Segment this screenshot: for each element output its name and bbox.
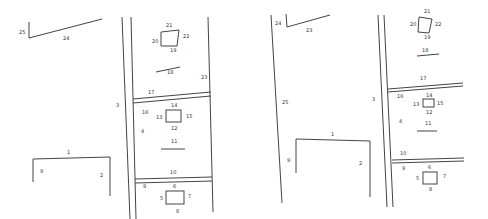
divider-10-a bbox=[392, 158, 464, 160]
box-19-22 bbox=[418, 17, 432, 33]
label-1: 1 bbox=[331, 131, 334, 137]
box-19-22 bbox=[161, 30, 179, 46]
left-panel: 25 24 1 9 2 3 21 20 22 19 18 23 17 14 13… bbox=[19, 17, 213, 219]
label-7: 7 bbox=[443, 173, 446, 179]
label-8: 8 bbox=[176, 208, 179, 214]
label-8: 8 bbox=[429, 186, 432, 192]
segment-1-2-9 bbox=[296, 139, 370, 197]
label-25: 25 bbox=[19, 29, 25, 35]
label-22: 22 bbox=[435, 21, 441, 27]
label-4: 4 bbox=[141, 128, 144, 134]
box-12-15 bbox=[166, 110, 181, 122]
label-20: 20 bbox=[152, 38, 158, 44]
label-16: 16 bbox=[142, 109, 148, 115]
label-18: 18 bbox=[422, 47, 428, 53]
label-9: 9 bbox=[40, 168, 43, 174]
wall-outer-left bbox=[122, 17, 130, 219]
box-5-8 bbox=[166, 191, 184, 204]
label-6: 6 bbox=[428, 164, 431, 170]
label-16: 16 bbox=[397, 93, 403, 99]
label-17: 17 bbox=[148, 89, 154, 95]
label-3: 3 bbox=[116, 102, 119, 108]
label-14: 14 bbox=[426, 92, 432, 98]
label-9b: 9 bbox=[402, 165, 405, 171]
label-6: 6 bbox=[173, 183, 176, 189]
label-19: 19 bbox=[170, 47, 176, 53]
label-9: 9 bbox=[287, 157, 290, 163]
label-21: 21 bbox=[424, 8, 430, 14]
label-18: 18 bbox=[167, 69, 173, 75]
label-25: 25 bbox=[282, 99, 288, 105]
label-4: 4 bbox=[399, 118, 402, 124]
label-13: 13 bbox=[413, 101, 419, 107]
label-21: 21 bbox=[166, 22, 172, 28]
segment-1-2-9 bbox=[33, 157, 110, 196]
label-5: 5 bbox=[416, 175, 419, 181]
wall-inner-left bbox=[131, 17, 136, 219]
label-12: 12 bbox=[171, 125, 177, 131]
wall-25 bbox=[271, 15, 282, 203]
label-24: 24 bbox=[275, 20, 281, 26]
right-panel: 24 23 25 1 9 2 3 21 20 22 19 18 17 14 13… bbox=[271, 8, 464, 207]
box-12-15 bbox=[423, 99, 434, 107]
label-2: 2 bbox=[100, 172, 103, 178]
label-11: 11 bbox=[171, 138, 177, 144]
segment-18 bbox=[417, 54, 439, 56]
diagram-canvas: 25 24 1 9 2 3 21 20 22 19 18 23 17 14 13… bbox=[0, 0, 488, 219]
label-17: 17 bbox=[420, 75, 426, 81]
segment-23-24 bbox=[286, 14, 330, 27]
label-23: 23 bbox=[306, 27, 312, 33]
label-23: 23 bbox=[201, 74, 207, 80]
wall-right bbox=[208, 17, 213, 212]
divider-17-a bbox=[133, 92, 211, 99]
label-15: 15 bbox=[186, 113, 192, 119]
label-9b: 9 bbox=[143, 183, 146, 189]
label-10: 10 bbox=[400, 150, 406, 156]
label-13: 13 bbox=[156, 114, 162, 120]
box-5-8 bbox=[423, 172, 437, 184]
label-15: 15 bbox=[437, 100, 443, 106]
label-19: 19 bbox=[424, 34, 430, 40]
label-5: 5 bbox=[160, 195, 163, 201]
divider-10-a bbox=[135, 177, 212, 179]
label-22: 22 bbox=[183, 33, 189, 39]
label-11: 11 bbox=[425, 120, 431, 126]
label-20: 20 bbox=[410, 21, 416, 27]
divider-10-b bbox=[392, 161, 464, 163]
label-24: 24 bbox=[63, 35, 69, 41]
label-14: 14 bbox=[171, 102, 177, 108]
divider-17-a bbox=[388, 83, 463, 89]
label-10: 10 bbox=[170, 169, 176, 175]
label-2: 2 bbox=[359, 160, 362, 166]
label-7: 7 bbox=[188, 193, 191, 199]
label-3: 3 bbox=[372, 96, 375, 102]
label-12: 12 bbox=[426, 109, 432, 115]
label-1: 1 bbox=[67, 149, 70, 155]
